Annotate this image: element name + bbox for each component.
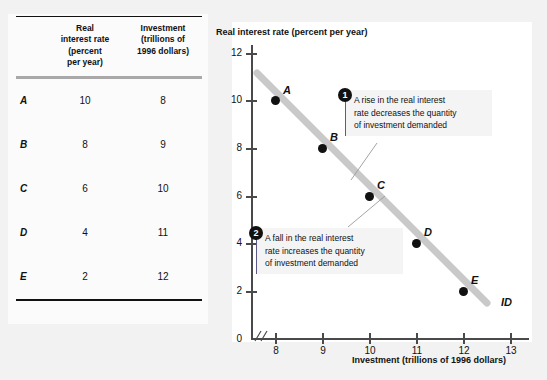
x-axis-line [251, 338, 529, 340]
row-rate: 8 [46, 139, 124, 150]
annotation-badge-1: 1 [338, 88, 352, 102]
row-rate: 6 [46, 183, 124, 194]
y-tick-label-8: 8 [212, 142, 242, 153]
chart-y-axis-title: Real interest rate (percent per year) [216, 27, 368, 37]
table-header-row: Real interest rate (percent per year) In… [16, 17, 202, 74]
x-tick-11 [416, 333, 418, 344]
table-row: C 6 10 [16, 167, 202, 211]
row-investment: 8 [124, 95, 202, 106]
annotation-callout-1: A rise in the real interest rate decreas… [345, 90, 492, 136]
row-rate: 2 [46, 271, 124, 282]
table-header-point-col [16, 23, 46, 69]
x-tick-13 [510, 333, 512, 344]
y-tick-label-4: 4 [212, 237, 242, 248]
y-tick-label-6: 6 [212, 190, 242, 201]
rate-header-line-1: Real [46, 23, 124, 34]
row-label: D [16, 227, 46, 238]
row-rate: 4 [46, 227, 124, 238]
curve-label-id: ID [501, 296, 512, 308]
y-tick-label-10: 10 [212, 94, 242, 105]
row-investment: 11 [124, 227, 202, 238]
rate-header-line-2: interest rate [46, 34, 124, 45]
annotation-1-line-3: of investment demanded [354, 119, 486, 132]
x-tick-8 [275, 333, 277, 344]
row-investment: 9 [124, 139, 202, 150]
investment-demand-figure: Real interest rate (percent per year) In… [0, 0, 547, 380]
x-tick-label-8: 8 [261, 345, 291, 356]
chart-x-axis-title: Investment (trillions of 1996 dollars) [352, 355, 506, 365]
annotation-callout-2: A fall in the real interest rate increas… [256, 228, 403, 274]
table-header-investment: Investment (trillions of 1996 dollars) [124, 23, 202, 69]
data-point-label-a: A [283, 84, 291, 96]
annotation-2-line-2: rate increases the quantity [265, 245, 397, 258]
y-tick-6 [246, 196, 257, 198]
annotation-badge-2: 2 [249, 226, 263, 240]
data-point-d [412, 239, 421, 248]
y-tick-label-2: 2 [212, 285, 242, 296]
row-investment: 12 [124, 271, 202, 282]
y-tick-8 [246, 148, 257, 150]
data-point-e [459, 287, 468, 296]
investment-header-line-3: 1996 dollars) [124, 46, 202, 57]
row-label: A [16, 95, 46, 106]
rate-header-line-4: per year) [46, 57, 124, 68]
x-tick-label-9: 9 [308, 345, 338, 356]
data-point-label-d: D [424, 226, 432, 238]
rate-header-line-3: (percent [46, 46, 124, 57]
y-tick-2 [246, 291, 257, 293]
table-row: B 8 9 [16, 123, 202, 167]
annotation-2-line-1: A fall in the real interest [265, 232, 397, 245]
y-tick-label-0: 0 [212, 333, 242, 344]
table-row: E 2 12 [16, 255, 202, 299]
row-label: B [16, 139, 46, 150]
x-tick-9 [322, 333, 324, 344]
x-tick-10 [369, 333, 371, 344]
table-header-rate: Real interest rate (percent per year) [46, 23, 124, 69]
investment-demand-table: Real interest rate (percent per year) In… [16, 16, 202, 301]
table-row: D 4 11 [16, 211, 202, 255]
data-point-label-b: B [330, 131, 338, 143]
table-row: A 10 8 [16, 79, 202, 123]
y-tick-label-12: 12 [212, 47, 242, 58]
data-point-a [271, 96, 280, 105]
row-label: C [16, 183, 46, 194]
annotation-1-line-2: rate decreases the quantity [354, 107, 486, 120]
data-point-label-c: C [377, 179, 385, 191]
annotation-2-line-3: of investment demanded [265, 257, 397, 270]
investment-header-line-1: Investment [124, 23, 202, 34]
table-body: A 10 8 B 8 9 C 6 10 D 4 11 E 2 1 [16, 79, 202, 299]
x-tick-12 [463, 333, 465, 344]
row-investment: 10 [124, 183, 202, 194]
investment-header-line-2: (trillions of [124, 34, 202, 45]
row-rate: 10 [46, 95, 124, 106]
row-label: E [16, 271, 46, 282]
data-point-b [318, 144, 327, 153]
y-tick-10 [246, 100, 257, 102]
table-bottom-rule [16, 299, 202, 301]
data-point-label-e: E [471, 274, 478, 286]
y-axis-line [251, 45, 253, 339]
y-tick-12 [246, 53, 257, 55]
annotation-1-line-1: A rise in the real interest [354, 94, 486, 107]
data-point-c [365, 192, 374, 201]
x-axis-break-icon [254, 329, 272, 343]
